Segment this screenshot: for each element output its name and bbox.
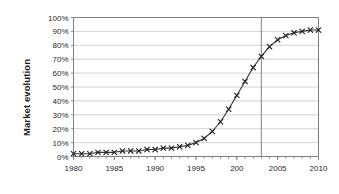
x-axis-tick-labels: 198019851990199520020052010 bbox=[65, 164, 328, 173]
data-point-1996 bbox=[202, 136, 207, 141]
y-tick-label-80: 80% bbox=[52, 41, 68, 50]
y-tick-label-60: 60% bbox=[52, 69, 68, 78]
y-axis-tick-labels: 0%10%20%30%40%50%60%70%80%90%100% bbox=[48, 14, 68, 162]
y-tick-label-90: 90% bbox=[52, 27, 68, 36]
data-point-1999 bbox=[226, 107, 231, 112]
y-tick-label-10: 10% bbox=[52, 139, 68, 148]
x-tick-label-1980: 1980 bbox=[65, 164, 83, 173]
series-markers-market-evolution bbox=[71, 28, 321, 156]
y-tick-label-100: 100% bbox=[48, 14, 68, 23]
data-point-2000 bbox=[235, 93, 240, 98]
market-evolution-chart: Market evolution 0%10%20%30%40%50%60%70%… bbox=[0, 0, 339, 194]
y-tick-label-70: 70% bbox=[52, 55, 68, 64]
series-line-market-evolution bbox=[74, 30, 319, 154]
x-tick-label-1985: 1985 bbox=[105, 164, 123, 173]
x-tick-label-1995: 1995 bbox=[187, 164, 205, 173]
data-point-2005 bbox=[275, 37, 280, 42]
y-tick-label-40: 40% bbox=[52, 97, 68, 106]
y-tick-label-30: 30% bbox=[52, 111, 68, 120]
x-tick-label-2010: 2010 bbox=[310, 164, 328, 173]
plot-canvas: 0%10%20%30%40%50%60%70%80%90%100% 198019… bbox=[0, 0, 339, 194]
horizontal-gridlines bbox=[74, 18, 319, 143]
x-tick-label-2005: 2005 bbox=[269, 164, 287, 173]
y-tick-label-20: 20% bbox=[52, 125, 68, 134]
data-point-1998 bbox=[218, 119, 223, 124]
x-axis-major-ticks bbox=[74, 157, 319, 161]
x-tick-label-2000: 200 bbox=[230, 164, 244, 173]
y-tick-label-0: 0% bbox=[57, 153, 69, 162]
y-tick-label-50: 50% bbox=[52, 83, 68, 92]
data-point-2002 bbox=[251, 65, 256, 70]
x-tick-label-1990: 1990 bbox=[146, 164, 164, 173]
data-point-1997 bbox=[210, 129, 215, 134]
data-point-2001 bbox=[243, 79, 248, 84]
